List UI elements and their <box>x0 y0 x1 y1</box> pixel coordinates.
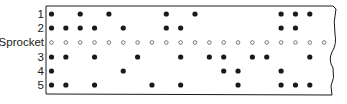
data-hole <box>135 54 140 59</box>
data-hole <box>63 54 68 59</box>
sprocket-hole <box>279 41 283 45</box>
tape-outline <box>46 6 336 95</box>
sprocket-hole <box>165 41 169 45</box>
data-hole <box>92 82 97 87</box>
data-hole <box>149 82 154 87</box>
data-hole <box>178 82 183 87</box>
data-hole <box>293 25 298 30</box>
sprocket-hole <box>150 41 154 45</box>
data-hole <box>264 54 269 59</box>
data-hole <box>49 11 54 16</box>
row-label-sprocket: Sprocket <box>0 36 44 48</box>
data-hole <box>279 25 284 30</box>
sprocket-hole <box>308 41 312 45</box>
data-hole <box>178 54 183 59</box>
data-hole <box>164 25 169 30</box>
data-hole <box>221 68 226 73</box>
sprocket-hole <box>251 41 255 45</box>
sprocket-hole <box>222 41 226 45</box>
data-hole <box>207 54 212 59</box>
data-hole <box>121 25 126 30</box>
row-label-4: 4 <box>38 65 44 77</box>
data-hole <box>279 82 284 87</box>
data-hole <box>221 54 226 59</box>
sprocket-hole <box>50 41 54 45</box>
data-hole <box>49 25 54 30</box>
data-hole <box>121 68 126 73</box>
data-hole <box>78 25 83 30</box>
data-hole <box>293 82 298 87</box>
data-hole <box>307 11 312 16</box>
data-hole <box>192 11 197 16</box>
data-hole <box>293 11 298 16</box>
data-hole <box>106 11 111 16</box>
sprocket-hole <box>179 41 183 45</box>
sprocket-hole <box>93 41 97 45</box>
sprocket-hole <box>294 41 298 45</box>
data-hole <box>63 82 68 87</box>
data-hole <box>49 54 54 59</box>
sprocket-hole <box>322 41 326 45</box>
data-hole <box>279 68 284 73</box>
row-label-3: 3 <box>38 51 44 63</box>
sprocket-hole <box>208 41 212 45</box>
data-hole <box>63 25 68 30</box>
data-hole <box>235 68 240 73</box>
sprocket-hole <box>193 41 197 45</box>
sprocket-hole <box>64 41 68 45</box>
row-label-5: 5 <box>38 79 44 91</box>
data-hole <box>307 82 312 87</box>
data-hole <box>49 68 54 73</box>
data-hole <box>92 25 97 30</box>
sprocket-hole <box>236 41 240 45</box>
sprocket-hole <box>121 41 125 45</box>
data-hole <box>178 25 183 30</box>
data-hole <box>250 54 255 59</box>
data-hole <box>164 11 169 16</box>
data-hole <box>235 82 240 87</box>
sprocket-hole <box>107 41 111 45</box>
tape-strip <box>0 0 347 104</box>
data-hole <box>49 82 54 87</box>
sprocket-hole <box>265 41 269 45</box>
data-hole <box>92 54 97 59</box>
data-hole <box>307 54 312 59</box>
data-hole <box>279 11 284 16</box>
row-label-1: 1 <box>38 8 44 20</box>
data-hole <box>78 11 83 16</box>
sprocket-hole <box>136 41 140 45</box>
sprocket-hole <box>78 41 82 45</box>
row-label-2: 2 <box>38 22 44 34</box>
